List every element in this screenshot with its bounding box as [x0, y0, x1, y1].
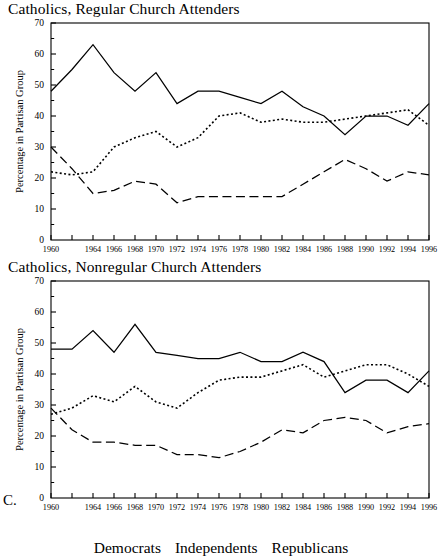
y-axis-tick-label: 70 [35, 18, 45, 28]
x-axis-tick-label: 1988 [337, 245, 353, 254]
figure-panel-c: Catholics, Regular Church Attenders 0102… [0, 0, 442, 559]
y-axis-tick-label: 70 [35, 276, 45, 286]
x-axis-tick-label: 1990 [358, 503, 374, 512]
x-axis-tick-label: 1964 [85, 503, 101, 512]
x-axis-tick-label: 1960 [43, 503, 59, 512]
x-axis-tick-label: 1992 [379, 503, 395, 512]
y-axis-tick-label: 50 [35, 338, 45, 348]
x-axis-tick-label: 1978 [232, 503, 248, 512]
chart-title-regular: Catholics, Regular Church Attenders [8, 0, 240, 17]
x-axis-tick-label: 1966 [106, 503, 122, 512]
series-line-independents [51, 110, 429, 175]
y-axis-title: Percentage in Partisan Group [14, 328, 25, 451]
series-line-democrats [51, 324, 429, 392]
x-axis-tick-label: 1996 [421, 245, 437, 254]
x-axis-tick-label: 1992 [379, 245, 395, 254]
legend-item-republicans: Republicans [272, 539, 349, 556]
line-chart-nonregular: 010203040506070Percentage in Partisan Gr… [0, 274, 442, 540]
x-axis-tick-label: 1972 [169, 245, 185, 254]
plot-area-nonregular: 010203040506070Percentage in Partisan Gr… [0, 274, 442, 540]
x-axis-tick-label: 1994 [400, 503, 416, 512]
x-axis-tick-label: 1970 [148, 245, 164, 254]
y-axis-tick-label: 40 [35, 111, 45, 121]
series-line-independents [51, 365, 429, 415]
y-axis-tick-label: 10 [35, 462, 45, 472]
y-axis-tick-label: 30 [35, 400, 45, 410]
x-axis-tick-label: 1976 [211, 503, 227, 512]
x-axis-tick-label: 1980 [253, 245, 269, 254]
x-axis-tick-label: 1988 [337, 503, 353, 512]
y-axis-tick-label: 60 [35, 49, 45, 59]
x-axis-tick-label: 1970 [148, 503, 164, 512]
x-axis-tick-label: 1976 [211, 245, 227, 254]
y-axis-tick-label: 40 [35, 369, 45, 379]
x-axis-tick-label: 1986 [316, 245, 332, 254]
legend-item-independents: Independents [175, 539, 258, 556]
x-axis-tick-label: 1984 [295, 245, 311, 254]
x-axis-tick-label: 1978 [232, 245, 248, 254]
chart-panel-nonregular-attenders: Catholics, Nonregular Church Attenders 0… [0, 258, 442, 540]
series-line-democrats [51, 45, 429, 135]
y-axis-tick-label: 20 [35, 431, 45, 441]
x-axis-tick-label: 1968 [127, 245, 143, 254]
x-axis-tick-label: 1984 [295, 503, 311, 512]
panel-letter-label: C. [3, 492, 17, 508]
x-axis-tick-label: 1990 [358, 245, 374, 254]
plot-frame [51, 281, 429, 498]
legend: DemocratsIndependentsRepublicans [0, 538, 442, 557]
x-axis-tick-label: 1974 [190, 503, 206, 512]
y-axis-tick-label: 30 [35, 142, 45, 152]
plot-area-regular: 010203040506070Percentage in Partisan Gr… [0, 16, 442, 258]
plot-frame [51, 23, 429, 240]
series-line-republicans [51, 147, 429, 203]
y-axis-tick-label: 60 [35, 307, 45, 317]
legend-item-democrats: Democrats [94, 539, 161, 556]
y-axis-title: Percentage in Partisan Group [14, 70, 25, 193]
line-chart-regular: 010203040506070Percentage in Partisan Gr… [0, 16, 442, 258]
x-axis-tick-label: 1974 [190, 245, 206, 254]
x-axis-tick-label: 1964 [85, 245, 101, 254]
y-axis-tick-label: 50 [35, 80, 45, 90]
x-axis-tick-label: 1968 [127, 503, 143, 512]
x-axis-tick-label: 1966 [106, 245, 122, 254]
series-line-republicans [51, 408, 429, 458]
x-axis-tick-label: 1986 [316, 503, 332, 512]
x-axis-tick-label: 1980 [253, 503, 269, 512]
x-axis-tick-label: 1972 [169, 503, 185, 512]
x-axis-tick-label: 1994 [400, 245, 416, 254]
y-axis-tick-label: 0 [39, 493, 44, 503]
x-axis-tick-label: 1996 [421, 503, 437, 512]
y-axis-tick-label: 0 [39, 235, 44, 245]
y-axis-tick-label: 10 [35, 204, 45, 214]
chart-title-nonregular: Catholics, Nonregular Church Attenders [8, 258, 261, 275]
x-axis-tick-label: 1960 [43, 245, 59, 254]
chart-panel-regular-attenders: Catholics, Regular Church Attenders 0102… [0, 0, 442, 258]
y-axis-tick-label: 20 [35, 173, 45, 183]
x-axis-tick-label: 1982 [274, 245, 290, 254]
x-axis-tick-label: 1982 [274, 503, 290, 512]
